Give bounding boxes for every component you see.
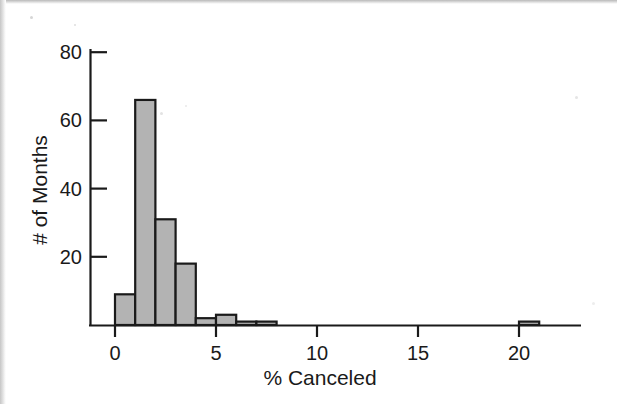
y-axis-title: # of Months xyxy=(28,135,51,245)
histogram-bar xyxy=(196,318,216,325)
x-axis-tick-label: 20 xyxy=(508,342,530,364)
histogram-bar xyxy=(216,315,236,325)
histogram-figure: 20406080 05101520 # of Months % Canceled xyxy=(0,0,617,404)
x-axis-title: % Canceled xyxy=(263,366,376,389)
y-axis-ticks xyxy=(91,52,108,257)
x-axis-ticks xyxy=(115,326,519,338)
histogram-bar xyxy=(115,294,135,325)
x-axis-tick-label: 10 xyxy=(306,342,328,364)
histogram-bar xyxy=(176,264,196,325)
y-axis-tick-label: 40 xyxy=(60,178,82,200)
x-axis-tick-labels: 05101520 xyxy=(109,342,530,364)
x-axis-tick-label: 15 xyxy=(407,342,429,364)
histogram-bar xyxy=(135,100,155,325)
histogram-canvas: 20406080 05101520 # of Months % Canceled xyxy=(0,0,617,404)
y-axis-tick-labels: 20406080 xyxy=(60,41,82,268)
y-axis-tick-label: 80 xyxy=(60,41,82,63)
y-axis-tick-label: 20 xyxy=(60,246,82,268)
histogram-bar xyxy=(155,219,175,325)
scanned-page: 20406080 05101520 # of Months % Canceled xyxy=(0,0,617,404)
x-axis-tick-label: 5 xyxy=(210,342,221,364)
y-axis-tick-label: 60 xyxy=(60,109,82,131)
x-axis-tick-label: 0 xyxy=(109,342,120,364)
bar-series xyxy=(115,100,539,325)
